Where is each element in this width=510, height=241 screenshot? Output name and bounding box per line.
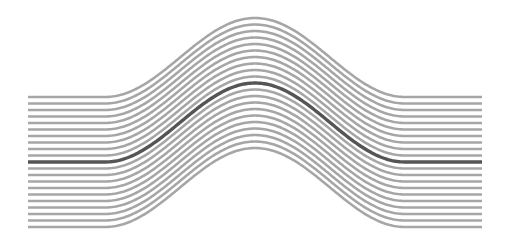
wave-line-bundle <box>28 18 482 227</box>
wave-lines-figure <box>0 0 510 241</box>
